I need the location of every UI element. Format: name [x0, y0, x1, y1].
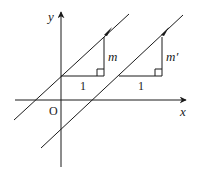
slope-triangle-2 — [119, 37, 162, 76]
parallel-lines-diagram: y x O 1 m 1 m′ — [0, 0, 197, 176]
line-1-direction-arrow — [104, 27, 112, 36]
right-angle-marker-2 — [155, 69, 162, 76]
origin-label: O — [49, 104, 58, 118]
x-axis-label: x — [179, 104, 186, 119]
run-label-1: 1 — [80, 79, 86, 93]
rise-label-2: m′ — [166, 49, 178, 64]
y-axis-label: y — [46, 9, 54, 24]
line-1 — [14, 14, 129, 120]
run-label-2: 1 — [138, 79, 144, 93]
rise-label-1: m — [108, 49, 117, 64]
line-2-direction-arrow — [161, 27, 169, 36]
right-angle-marker-1 — [97, 69, 104, 76]
